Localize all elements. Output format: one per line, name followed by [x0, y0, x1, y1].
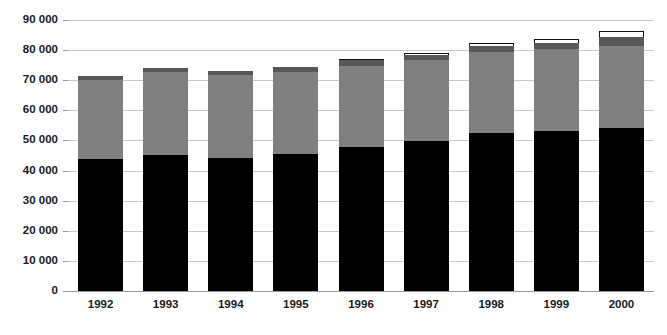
- x-axis-tick-label: 1994: [218, 298, 244, 310]
- y-axis-tick-label: 90 000: [23, 14, 58, 26]
- x-axis-tick-label: 1999: [544, 298, 570, 310]
- y-axis-tick-label: 50 000: [23, 135, 58, 147]
- y-axis-tick-label: 40 000: [23, 165, 58, 177]
- x-axis-tick-label: 1993: [153, 298, 179, 310]
- y-axis-tick-label: 80 000: [23, 44, 58, 56]
- y-axis-tick-label: 10 000: [23, 255, 58, 267]
- x-axis-tick-label: 2000: [609, 298, 635, 310]
- x-axis-tick-label: 1997: [413, 298, 439, 310]
- y-axis-tick-label: 20 000: [23, 225, 58, 237]
- x-axis-tick-label: 1995: [283, 298, 309, 310]
- x-axis-labels: 199219931994199519961997199819992000: [68, 0, 654, 335]
- x-axis-tick-label: 1998: [478, 298, 504, 310]
- stacked-bar-chart: 010 00020 00030 00040 00050 00060 00070 …: [0, 0, 667, 335]
- y-axis-labels: 010 00020 00030 00040 00050 00060 00070 …: [0, 20, 58, 291]
- x-axis-tick-label: 1996: [348, 298, 374, 310]
- y-axis-tick-label: 0: [52, 285, 58, 297]
- y-axis-tick-label: 60 000: [23, 105, 58, 117]
- y-axis-tick-label: 30 000: [23, 195, 58, 207]
- y-axis-tick-label: 70 000: [23, 74, 58, 86]
- x-axis-tick-label: 1992: [88, 298, 114, 310]
